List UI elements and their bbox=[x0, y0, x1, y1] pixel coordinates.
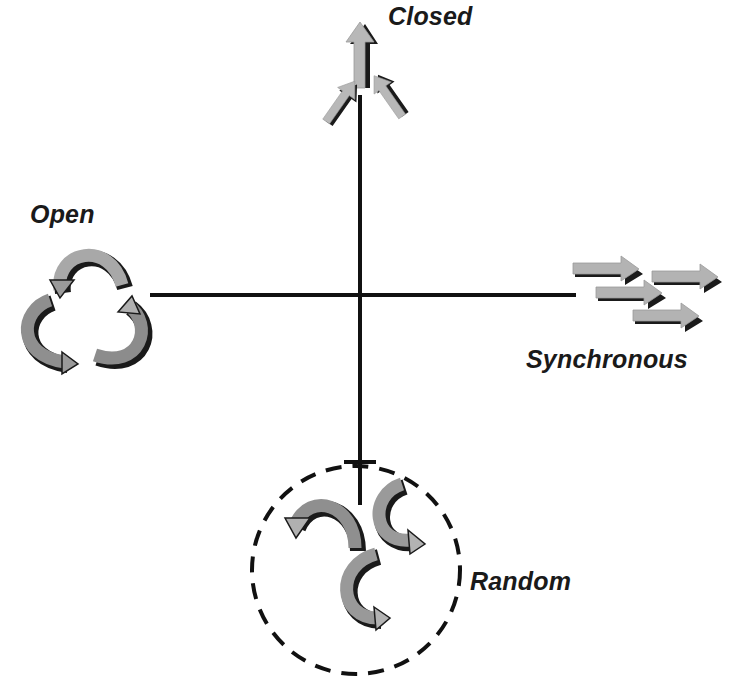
communication-modes-diagram bbox=[0, 0, 750, 681]
label-random: Random bbox=[470, 567, 571, 596]
converging-up-arrows-icon bbox=[318, 22, 414, 129]
label-closed: Closed bbox=[388, 2, 473, 31]
cyclic-arrows-icon bbox=[27, 255, 144, 374]
parallel-right-arrows-icon bbox=[573, 256, 722, 332]
random-curved-arrows-icon bbox=[252, 466, 460, 674]
label-open: Open bbox=[30, 200, 95, 229]
label-synchronous: Synchronous bbox=[526, 345, 688, 374]
axes bbox=[150, 95, 576, 505]
